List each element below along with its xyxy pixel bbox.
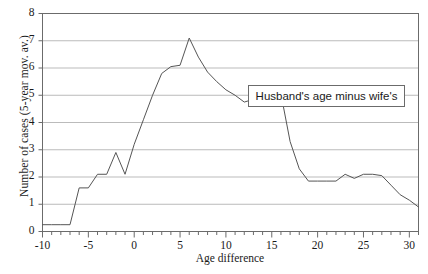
data-series-group [43,38,419,225]
x-tick-label: 0 [114,239,154,251]
x-axis-ticks [43,232,419,238]
grid-lines [43,41,419,205]
y-axis-ticks [39,14,43,232]
x-tick-label: 25 [343,239,383,251]
y-tick-label: 4 [9,115,35,127]
legend-label: Husband's age minus wife's [256,90,398,102]
x-axis-label: Age difference [42,252,418,264]
x-tick-label: -10 [23,239,63,251]
x-tick-label: 30 [389,239,428,251]
x-tick-label: 20 [298,239,338,251]
x-tick-label: 15 [252,239,292,251]
y-tick-label: 1 [9,196,35,208]
x-tick-label: 10 [206,239,246,251]
legend-box: Husband's age minus wife's [248,85,405,107]
y-tick-label: 2 [9,169,35,181]
y-tick-label: 6 [9,60,35,72]
plot-area [0,0,428,274]
x-tick-label: -5 [68,239,108,251]
x-tick-label: 5 [160,239,200,251]
y-tick-label: 3 [9,142,35,154]
y-tick-label: 8 [9,6,35,18]
chart-figure: Number of cases (5-year mov. av.) Age di… [0,0,428,274]
y-tick-label: 0 [9,224,35,236]
y-tick-label: 7 [9,33,35,45]
y-tick-label: 5 [9,87,35,99]
